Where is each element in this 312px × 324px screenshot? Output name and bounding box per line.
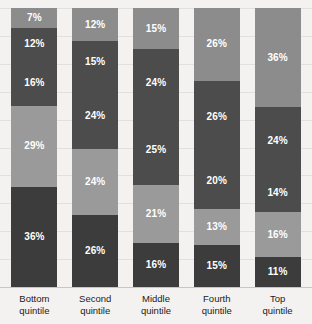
x-axis-line xyxy=(0,287,312,288)
category-label: Secondquintile xyxy=(72,290,118,317)
bar-segment[interactable]: 15% xyxy=(72,41,118,82)
bar-segment[interactable]: 16% xyxy=(255,212,301,256)
bar-segment[interactable]: 24% xyxy=(72,83,118,149)
bar-segment-label: 14% xyxy=(267,188,287,198)
bar-stack: 26%26%20%13%15% xyxy=(194,8,240,287)
bar-segment-label: 24% xyxy=(85,111,105,121)
bar-stack: 7%12%16%29%36% xyxy=(11,8,57,287)
bar-column[interactable]: 26%26%20%13%15% xyxy=(194,8,240,288)
category-label-line: quintile xyxy=(255,305,301,317)
bar-segment-label: 25% xyxy=(146,145,166,155)
bar-segment[interactable]: 11% xyxy=(255,257,301,287)
bar-segment[interactable]: 16% xyxy=(133,243,179,287)
bar-segment[interactable]: 13% xyxy=(194,209,240,245)
bar-segment-label: 15% xyxy=(146,24,166,34)
bar-stack: 12%15%24%24%26% xyxy=(72,8,118,287)
category-label: Fourthquintile xyxy=(194,290,240,317)
bar-segment[interactable]: 25% xyxy=(133,116,179,185)
bar-segment[interactable]: 14% xyxy=(255,174,301,213)
bar-segment-label: 21% xyxy=(146,209,166,219)
bar-segment[interactable]: 24% xyxy=(255,107,301,173)
category-label-line: Top xyxy=(255,293,301,305)
category-label: Bottomquintile xyxy=(11,290,57,317)
bar-segment-label: 7% xyxy=(27,13,42,23)
bar-segment[interactable]: 26% xyxy=(194,8,240,81)
bar-segment[interactable]: 12% xyxy=(11,28,57,61)
category-label-line: quintile xyxy=(72,305,118,317)
bar-segment[interactable]: 26% xyxy=(194,81,240,154)
bar-segment[interactable]: 26% xyxy=(72,215,118,287)
bar-segment[interactable]: 36% xyxy=(255,8,301,107)
bar-column[interactable]: 7%12%16%29%36% xyxy=(11,8,57,288)
bar-column[interactable]: 12%15%24%24%26% xyxy=(72,8,118,288)
category-label-line: Bottom xyxy=(11,293,57,305)
bar-segment-label: 26% xyxy=(207,112,227,122)
bar-segment-label: 15% xyxy=(207,261,227,271)
bar-segment[interactable]: 24% xyxy=(133,49,179,115)
bar-segment-label: 13% xyxy=(207,222,227,232)
bar-segment-label: 29% xyxy=(24,141,44,151)
bar-segment-label: 12% xyxy=(24,39,44,49)
bar-segment[interactable]: 15% xyxy=(194,245,240,287)
category-label: Topquintile xyxy=(255,290,301,317)
plot-area: 7%12%16%29%36%12%15%24%24%26%15%24%25%21… xyxy=(0,0,312,288)
bar-segment-label: 26% xyxy=(207,39,227,49)
bar-segment[interactable]: 15% xyxy=(133,8,179,49)
stacked-bar-chart: 7%12%16%29%36%12%15%24%24%26%15%24%25%21… xyxy=(0,0,312,324)
bars-layer: 7%12%16%29%36%12%15%24%24%26%15%24%25%21… xyxy=(0,0,312,288)
bar-segment-label: 20% xyxy=(207,176,227,186)
bar-segment-label: 36% xyxy=(24,232,44,242)
bar-segment[interactable]: 20% xyxy=(194,153,240,209)
bar-segment-label: 11% xyxy=(268,267,288,277)
bar-segment-label: 12% xyxy=(85,20,105,30)
category-label-line: quintile xyxy=(194,305,240,317)
bar-segment[interactable]: 29% xyxy=(11,106,57,187)
bar-segment-label: 16% xyxy=(146,260,166,270)
bar-segment-label: 16% xyxy=(24,78,44,88)
category-label-line: quintile xyxy=(11,305,57,317)
bar-stack: 36%24%14%16%11% xyxy=(255,8,301,287)
bar-segment-label: 16% xyxy=(267,230,287,240)
bar-column[interactable]: 15%24%25%21%16% xyxy=(133,8,179,288)
bar-segment-label: 24% xyxy=(85,177,105,187)
bar-segment-label: 15% xyxy=(85,57,105,67)
category-label: Middlequintile xyxy=(133,290,179,317)
bar-segment-label: 36% xyxy=(267,53,287,63)
bar-segment-label: 24% xyxy=(267,136,287,146)
bar-segment[interactable]: 36% xyxy=(11,187,57,287)
category-label-line: Middle xyxy=(133,293,179,305)
bar-segment-label: 24% xyxy=(146,78,166,88)
category-label-line: Fourth xyxy=(194,293,240,305)
category-labels: BottomquintileSecondquintileMiddlequinti… xyxy=(0,290,312,324)
bar-column[interactable]: 36%24%14%16%11% xyxy=(255,8,301,288)
category-label-line: quintile xyxy=(133,305,179,317)
bar-segment[interactable]: 12% xyxy=(72,8,118,41)
category-label-line: Second xyxy=(72,293,118,305)
bar-segment[interactable]: 7% xyxy=(11,8,57,28)
bar-segment[interactable]: 16% xyxy=(11,61,57,106)
bar-segment-label: 26% xyxy=(85,246,105,256)
bar-stack: 15%24%25%21%16% xyxy=(133,8,179,287)
bar-segment[interactable]: 24% xyxy=(72,149,118,215)
bar-segment[interactable]: 21% xyxy=(133,185,179,243)
